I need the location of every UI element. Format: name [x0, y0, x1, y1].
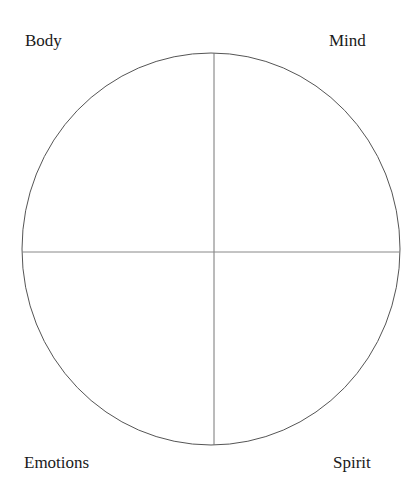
label-mind: Mind — [329, 32, 366, 49]
label-body: Body — [25, 32, 62, 49]
wheel-circle — [22, 53, 400, 445]
label-emotions: Emotions — [24, 454, 89, 471]
label-spirit: Spirit — [333, 454, 371, 471]
wheel-diagram — [0, 0, 415, 503]
